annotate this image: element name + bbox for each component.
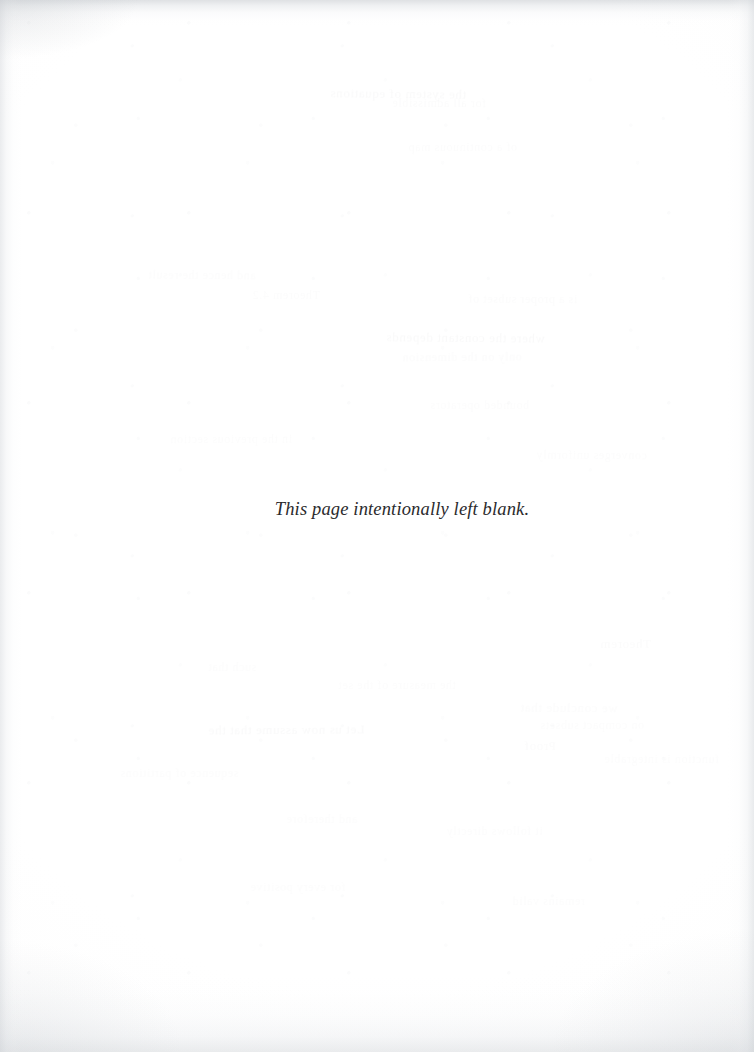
blank-page-notice-text: This page intentionally left blank. xyxy=(275,498,529,520)
blank-page-notice: This page intentionally left blank. xyxy=(0,498,754,520)
page-content-area: This page intentionally left blank. xyxy=(0,0,754,1052)
scanned-page: the system of equationsfor all admissibl… xyxy=(0,0,754,1052)
